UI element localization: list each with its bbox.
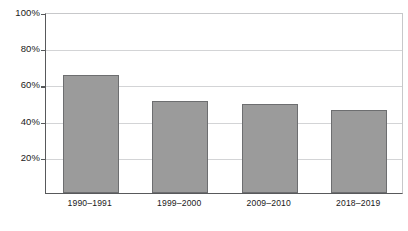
y-axis-tick-label-100: 100% [15, 8, 40, 18]
y-axis-tick-label-20: 20% [21, 153, 40, 163]
bar [63, 75, 119, 193]
x-axis-label-group: 1990–1991 1999–2000 2009–2010 2018–2019 [45, 198, 403, 218]
y-axis-tick-label-60: 60% [21, 81, 40, 91]
bar [331, 110, 387, 193]
y-axis-label-group: 100% 80% 60% 40% 20% [0, 0, 40, 231]
x-axis-tick-label-3: 2018–2019 [314, 198, 404, 208]
plot-area [45, 13, 403, 194]
bar-chart: 100% 80% 60% 40% 20% 1990–1991 1999–2000… [0, 0, 408, 231]
x-axis-tick-label-2: 2009–2010 [224, 198, 314, 208]
x-axis-tick-label-1: 1999–2000 [135, 198, 225, 208]
x-axis-tick-label-0: 1990–1991 [45, 198, 135, 208]
bar-group [46, 14, 402, 193]
bar [152, 101, 208, 193]
y-axis-tick-label-40: 40% [21, 117, 40, 127]
y-axis-tick-label-80: 80% [21, 44, 40, 54]
bar [242, 104, 298, 193]
